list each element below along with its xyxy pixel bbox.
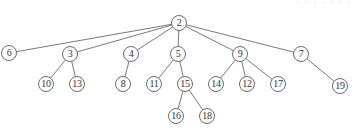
edge-15-18 bbox=[189, 90, 203, 110]
node-2-label: 2 bbox=[170, 16, 188, 30]
node-19-label: 19 bbox=[331, 79, 349, 93]
node-13-label: 13 bbox=[68, 77, 86, 91]
edge-4-8 bbox=[125, 61, 129, 77]
node-17-label: 17 bbox=[269, 77, 287, 91]
edge-2-9 bbox=[186, 26, 234, 50]
edge-9-12 bbox=[242, 61, 246, 76]
edge-2-4 bbox=[137, 27, 172, 50]
node-11-label: 11 bbox=[145, 77, 163, 91]
node-4-label: 4 bbox=[122, 47, 140, 61]
edge-15-16 bbox=[178, 91, 183, 109]
edge-5-15 bbox=[180, 61, 184, 76]
node-3-label: 3 bbox=[61, 47, 79, 61]
node-10-label: 10 bbox=[37, 77, 55, 91]
node-14-label: 14 bbox=[207, 77, 225, 91]
node-6-label: 6 bbox=[0, 46, 18, 60]
edge-3-10 bbox=[51, 60, 66, 78]
node-12-label: 12 bbox=[238, 77, 256, 91]
node-5-label: 5 bbox=[169, 47, 187, 61]
edge-5-11 bbox=[159, 60, 174, 78]
edge-7-19 bbox=[307, 59, 334, 81]
edge-3-13 bbox=[72, 61, 76, 76]
node-9-label: 9 bbox=[231, 47, 249, 61]
tree-diagram: . . . . . . . 26345971013811151412171916… bbox=[0, 0, 354, 132]
edge-9-14 bbox=[221, 60, 236, 78]
node-18-label: 18 bbox=[198, 109, 216, 123]
node-8-label: 8 bbox=[114, 77, 132, 91]
node-16-label: 16 bbox=[167, 109, 185, 123]
node-7-label: 7 bbox=[292, 47, 310, 61]
node-15-label: 15 bbox=[176, 77, 194, 91]
edge-2-5 bbox=[178, 30, 179, 46]
